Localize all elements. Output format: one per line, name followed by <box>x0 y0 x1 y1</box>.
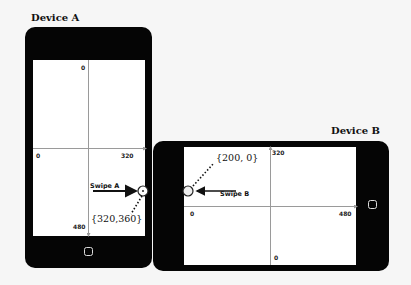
device-a-leader-line <box>131 196 142 214</box>
device-b-touch-point-icon <box>183 186 193 196</box>
device-b-leader-line <box>193 163 214 186</box>
annotation-overlay <box>0 0 411 285</box>
